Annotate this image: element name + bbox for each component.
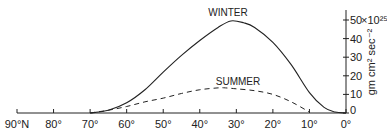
winter-label: WINTER [208, 7, 247, 18]
y-axis-label: gm cm² sec⁻² [365, 28, 377, 95]
y-axis: 01020304050 [343, 10, 362, 116]
y-tick-label: 0 [350, 104, 356, 116]
x-tick-label: 0° [341, 118, 352, 130]
y-tick-label: 10 [350, 88, 362, 100]
x-tick-label: 50° [155, 118, 172, 130]
y-tick-label: 40 [350, 33, 362, 45]
y-tick-label: 20 [350, 70, 362, 82]
summer-label: SUMMER [216, 76, 260, 87]
x-tick-label: 10° [301, 118, 318, 130]
x-tick-label: 30° [228, 118, 245, 130]
y-tick-label: 30 [350, 51, 362, 63]
x-tick-label: 80° [45, 118, 62, 130]
winter-curve [90, 21, 346, 113]
x-tick-label: 20° [265, 118, 282, 130]
chart: 90°N80°70°60°50°40°30°20°10°0° 010203040… [0, 0, 387, 134]
x-tick-label: 60° [118, 118, 135, 130]
x-tick-label: 90°N [5, 118, 30, 130]
x-tick-label: 70° [82, 118, 99, 130]
y-multiplier: ×10²⁵ [361, 14, 387, 26]
x-axis: 90°N80°70°60°50°40°30°20°10°0° [5, 109, 352, 130]
x-tick-label: 40° [191, 118, 208, 130]
